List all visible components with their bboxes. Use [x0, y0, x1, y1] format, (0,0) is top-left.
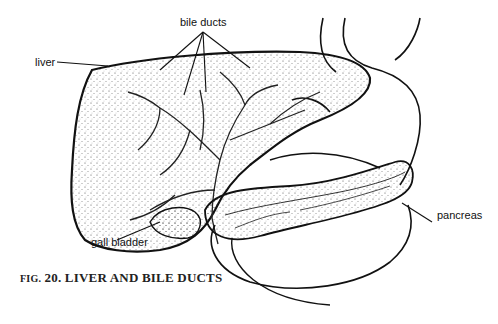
figure-caption: FIG. 20. LIVER AND BILE DUCTS [20, 270, 222, 286]
caption-prefix: FIG. [20, 273, 41, 284]
caption-title: LIVER AND BILE DUCTS [65, 270, 223, 285]
label-liver: liver [35, 56, 55, 68]
label-gall-bladder: gall bladder [91, 236, 148, 248]
label-pancreas: pancreas [437, 209, 482, 221]
caption-number: 20. [45, 270, 62, 285]
label-bile-ducts: bile ducts [180, 16, 226, 28]
